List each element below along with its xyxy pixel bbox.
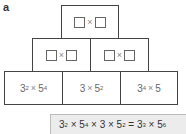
times-sign: ×	[31, 83, 36, 93]
equals-sign: =	[126, 119, 137, 130]
base: 5	[155, 83, 161, 94]
pyramid-bottom-cell-3: 34 × 5	[120, 71, 178, 105]
answer-box[interactable]	[95, 17, 106, 28]
pyramid-bottom-cell-1: 32 × 54	[4, 71, 63, 105]
answer-box[interactable]	[46, 50, 57, 61]
answer-box[interactable]	[104, 50, 115, 61]
answer-box[interactable]	[66, 50, 77, 61]
worked-example-box: 32 × 54 × 3 × 52 = 33 × 56	[50, 114, 186, 134]
base: 5	[38, 83, 44, 94]
times-sign: ×	[68, 119, 79, 130]
term: 5	[157, 119, 163, 130]
term: 3	[59, 119, 65, 130]
times-sign: ×	[105, 119, 116, 130]
exercise-label: a	[3, 1, 9, 13]
pyramid-bottom-cell-2: 3 × 52	[62, 71, 121, 105]
pyramid-top-cell: ×	[61, 5, 119, 39]
pyramid-middle-left-cell: ×	[32, 38, 91, 72]
times-sign: ×	[87, 17, 92, 27]
times-sign: ×	[88, 119, 99, 130]
pyramid-middle-right-cell: ×	[90, 38, 149, 72]
times-sign: ×	[148, 83, 153, 93]
times-sign: ×	[117, 50, 122, 60]
times-sign: ×	[146, 119, 157, 130]
base: 3	[137, 83, 143, 94]
answer-box[interactable]	[124, 50, 135, 61]
base: 3	[20, 83, 26, 94]
answer-box[interactable]	[74, 17, 85, 28]
times-sign: ×	[59, 50, 64, 60]
times-sign: ×	[87, 83, 92, 93]
base: 3	[80, 83, 86, 94]
